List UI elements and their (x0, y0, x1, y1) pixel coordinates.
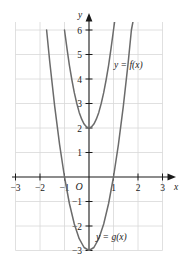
coordinate-plane-svg: −3 −2 −1 1 2 3 6 5 4 3 2 1 −1 −2 −3 O x … (0, 0, 184, 258)
curve-f (65, 22, 115, 128)
y-tick-label-1: 1 (77, 148, 82, 158)
y-tick-label-4: 4 (77, 75, 82, 85)
y-tick-label-5: 5 (77, 50, 82, 60)
x-tick-label--3: −3 (10, 183, 20, 193)
y-tick-label-2: 2 (77, 124, 82, 134)
y-tick-label--1: −1 (72, 197, 82, 207)
x-axis-label: x (173, 182, 179, 192)
graph-figure: −3 −2 −1 1 2 3 6 5 4 3 2 1 −1 −2 −3 O x … (0, 0, 184, 258)
x-axis (12, 174, 176, 181)
y-axis (86, 13, 93, 250)
x-tick-label--1: −1 (59, 183, 69, 193)
y-tick-label-6: 6 (77, 26, 82, 36)
curve-label-f: y = f(x) (113, 60, 143, 71)
x-tick-label--2: −2 (35, 183, 45, 193)
x-tick-label-2: 2 (136, 183, 141, 193)
y-axis-label: y (77, 10, 83, 20)
origin-label: O (75, 181, 82, 192)
curve-label-g: y = g(x) (95, 232, 127, 243)
x-tick-labels: −3 −2 −1 1 2 3 (10, 183, 165, 193)
x-tick-label-3: 3 (160, 183, 165, 193)
curve-g (47, 22, 133, 251)
y-tick-label--3: −3 (72, 246, 82, 256)
